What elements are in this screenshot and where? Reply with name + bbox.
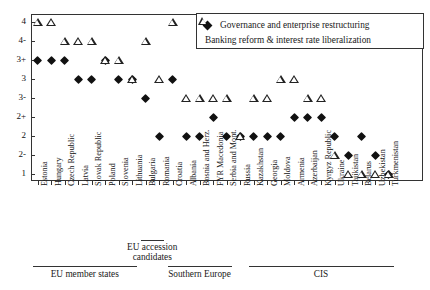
x-axis-tick xyxy=(65,181,66,185)
x-axis-tick-label: FYR Macedonia xyxy=(217,132,225,186)
x-axis-tick xyxy=(375,181,376,185)
x-axis-tick xyxy=(240,181,241,185)
group-label: EU accession candidates xyxy=(113,242,193,262)
x-axis-tick xyxy=(92,181,93,185)
x-axis-tick xyxy=(119,181,120,185)
legend-item-governance: Governance and enterprise restructuring xyxy=(203,17,418,32)
x-axis-tick xyxy=(146,181,147,185)
y-axis-tick-label: 3 xyxy=(6,74,26,83)
y-axis-tick-label: 2- xyxy=(6,150,26,159)
x-axis-tick xyxy=(38,181,39,185)
x-axis-tick xyxy=(321,181,322,185)
x-axis-tick-label: Lithuania xyxy=(136,155,144,186)
x-axis-tick-label: Poland xyxy=(109,163,117,186)
y-axis-tick xyxy=(31,98,35,99)
scatter-chart: 44-3+33-2+22-1 EstoniaHungaryCzech Repub… xyxy=(0,0,430,290)
x-axis-tick xyxy=(362,181,363,185)
x-axis-tick-label: Czech Republic xyxy=(68,134,76,186)
x-axis-tick xyxy=(294,181,295,185)
y-axis-tick-label: 4 xyxy=(6,17,26,26)
open-triangle-icon xyxy=(198,17,213,29)
x-axis-tick-label: Bulgaria xyxy=(149,158,157,186)
x-axis-tick-label: Slovenia xyxy=(122,157,130,186)
x-axis-tick xyxy=(200,181,201,185)
x-axis-tick xyxy=(186,181,187,185)
x-axis-tick xyxy=(105,181,106,185)
x-axis-tick xyxy=(173,181,174,185)
legend-label-governance: Governance and enterprise restructuring xyxy=(218,20,369,30)
y-axis-tick xyxy=(31,41,35,42)
x-axis-tick xyxy=(389,181,390,185)
y-axis-tick xyxy=(31,155,35,156)
x-axis-tick-label: Latvia xyxy=(82,165,90,186)
x-axis-tick-label: Azerbaijan xyxy=(311,150,319,186)
x-axis-tick-label: Bosnia and Herz. xyxy=(203,129,211,186)
legend-label-banking: Banking reform & interest rate liberaliz… xyxy=(203,35,371,45)
x-axis-tick xyxy=(132,181,133,185)
y-axis-tick xyxy=(31,117,35,118)
x-axis-tick xyxy=(78,181,79,185)
y-axis-tick-label: 4- xyxy=(6,36,26,45)
x-axis-tick-label: Albania xyxy=(190,160,198,186)
chart-legend: Governance and enterprise restructuring … xyxy=(196,13,424,49)
x-axis-tick-label: Kazakhstan xyxy=(257,148,265,186)
x-axis-tick-label: Russia xyxy=(244,164,252,186)
x-axis-tick xyxy=(213,181,214,185)
group-rule xyxy=(33,266,138,267)
y-axis-tick-label: 3- xyxy=(6,93,26,102)
x-axis-tick xyxy=(335,181,336,185)
x-axis-tick xyxy=(227,181,228,185)
x-axis-tick-label: Croatia xyxy=(176,162,184,186)
y-axis-tick-label: 2+ xyxy=(6,112,26,121)
y-axis-tick xyxy=(31,79,35,80)
group-rule xyxy=(141,240,165,241)
y-axis-tick-label: 3+ xyxy=(6,55,26,64)
y-axis-tick xyxy=(31,136,35,137)
group-label: CIS xyxy=(219,269,424,279)
x-axis-tick xyxy=(281,181,282,185)
y-axis-tick xyxy=(31,174,35,175)
x-axis-tick xyxy=(254,181,255,185)
x-axis-tick-label: Turkmenistan xyxy=(392,141,400,186)
x-axis-tick-label: Georgia xyxy=(271,160,279,186)
legend-item-banking: Banking reform & interest rate liberaliz… xyxy=(203,32,418,47)
x-axis-tick-label: Estonia xyxy=(41,161,49,186)
x-axis-tick xyxy=(51,181,52,185)
y-axis-tick-label: 2 xyxy=(6,131,26,140)
group-rule xyxy=(168,266,232,267)
x-axis-tick xyxy=(308,181,309,185)
x-axis-tick-label: Armenia xyxy=(298,157,306,186)
x-axis-tick-label: Moldova xyxy=(284,156,292,186)
x-axis-tick-label: Romania xyxy=(163,156,171,186)
x-axis-tick-label: Slovak Republic xyxy=(95,132,103,186)
x-axis-tick xyxy=(267,181,268,185)
x-axis-tick xyxy=(348,181,349,185)
y-axis-tick-label: 1 xyxy=(6,169,26,178)
x-axis-tick xyxy=(159,181,160,185)
group-rule xyxy=(249,266,394,267)
x-axis-tick-label: Hungary xyxy=(55,157,63,186)
